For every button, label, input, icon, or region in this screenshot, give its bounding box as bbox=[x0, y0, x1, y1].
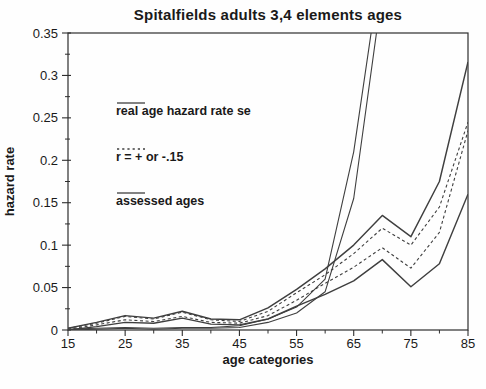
y-tick-label: 0.25 bbox=[33, 110, 58, 125]
legend-entry-r-015: r = + or -.15 bbox=[116, 137, 336, 164]
solid-line-sample-icon bbox=[116, 91, 336, 95]
legend-entry-assessed-ages: assessed ages bbox=[116, 181, 336, 208]
y-tick-label: 0.05 bbox=[33, 280, 58, 295]
assessed-ages-lower-line bbox=[68, 194, 468, 330]
real-age-se-lower-line bbox=[68, 0, 382, 330]
hazard-rate-chart: Spitalfields adults 3,4 elements ages ha… bbox=[0, 0, 486, 389]
x-tick-label: 85 bbox=[461, 336, 475, 351]
y-tick-label: 0 bbox=[51, 323, 58, 338]
x-tick-label: 75 bbox=[404, 336, 418, 351]
x-tick-label: 25 bbox=[118, 336, 132, 351]
dashed-line-sample-icon bbox=[116, 137, 336, 141]
x-tick-label: 55 bbox=[289, 336, 303, 351]
legend-entry-real-age: real age hazard rate se bbox=[116, 91, 336, 118]
legend-label-r-015: r = + or -.15 bbox=[116, 150, 336, 164]
y-tick-label: 0.1 bbox=[40, 238, 58, 253]
y-tick-label: 0.3 bbox=[40, 68, 58, 83]
legend-label-assessed-ages: assessed ages bbox=[116, 194, 336, 208]
x-axis-label: age categories bbox=[68, 352, 468, 367]
solid-line-sample-icon bbox=[116, 181, 336, 185]
y-tick-label: 0.15 bbox=[33, 195, 58, 210]
x-tick-label: 65 bbox=[346, 336, 360, 351]
real-age-se-upper-line bbox=[68, 0, 382, 329]
x-tick-label: 45 bbox=[232, 336, 246, 351]
x-tick-label: 35 bbox=[175, 336, 189, 351]
y-tick-label: 0.35 bbox=[33, 26, 58, 41]
y-tick-label: 0.2 bbox=[40, 153, 58, 168]
x-tick-label: 15 bbox=[61, 336, 75, 351]
legend-label-real-age: real age hazard rate se bbox=[116, 104, 336, 118]
